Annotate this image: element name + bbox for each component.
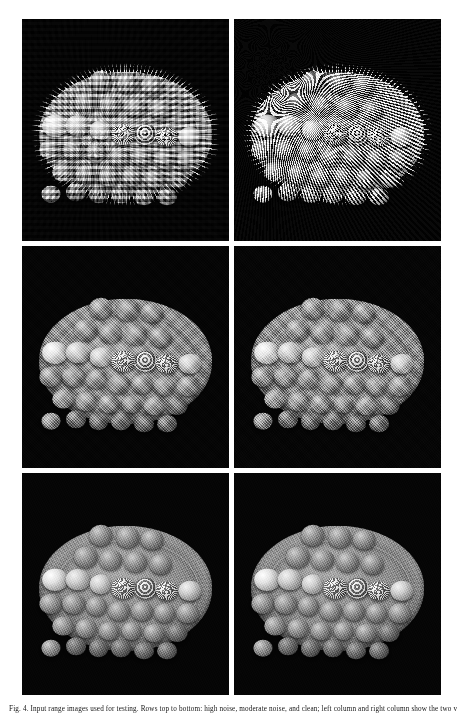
sphere	[321, 147, 343, 166]
sphere	[301, 413, 321, 430]
sphere	[121, 395, 142, 413]
sphere	[333, 168, 354, 186]
sphere	[366, 603, 388, 622]
sphere	[134, 415, 154, 432]
sphere	[157, 415, 177, 432]
sphere	[176, 376, 198, 396]
sphere	[353, 530, 375, 550]
sphere	[301, 347, 323, 367]
sphere	[86, 370, 108, 389]
sphere	[121, 622, 142, 640]
sphere	[343, 601, 365, 620]
panel-row2-right	[234, 246, 441, 468]
range-scan-scene	[22, 473, 229, 695]
sphere	[323, 640, 343, 657]
sphere	[298, 370, 320, 389]
sphere	[253, 186, 272, 203]
sphere	[356, 397, 377, 415]
sphere	[156, 127, 178, 147]
sphere	[134, 188, 154, 205]
panel-row-2	[22, 246, 441, 468]
figure-caption: Fig. 4. Input range images used for test…	[9, 705, 457, 717]
sphere	[286, 93, 310, 114]
panel-row1-right	[234, 19, 441, 241]
sphere	[89, 347, 111, 367]
sphere	[99, 395, 120, 413]
sphere	[66, 637, 86, 654]
sphere	[288, 619, 309, 637]
sphere	[368, 581, 390, 601]
sphere	[109, 601, 131, 620]
sphere	[154, 149, 176, 168]
sphere	[321, 601, 343, 620]
sphere	[86, 143, 108, 162]
sphere	[42, 568, 68, 591]
sphere	[277, 342, 302, 364]
sphere	[379, 624, 400, 642]
sphere	[53, 617, 75, 636]
sphere	[131, 374, 153, 393]
sphere	[333, 622, 354, 640]
sphere	[301, 120, 323, 140]
sphere	[111, 186, 131, 203]
sphere	[66, 183, 86, 200]
panel-row-1	[22, 19, 441, 241]
sphere	[76, 392, 97, 410]
sphere	[265, 390, 287, 409]
sphere	[278, 183, 298, 200]
sphere	[176, 603, 198, 623]
sphere	[65, 569, 90, 591]
sphere	[41, 413, 60, 430]
sphere	[99, 622, 120, 640]
sphere	[131, 601, 153, 620]
panel-row2-left	[22, 246, 229, 468]
sphere	[311, 622, 332, 640]
panel-row-3	[22, 473, 441, 695]
sphere	[298, 597, 320, 616]
sphere	[41, 186, 60, 203]
sphere	[141, 303, 163, 323]
sphere	[278, 637, 298, 654]
sphere	[141, 530, 163, 550]
figure-root: Fig. 4. Input range images used for test…	[0, 0, 462, 717]
sphere	[253, 413, 272, 430]
range-scan-scene	[234, 19, 441, 241]
sphere	[144, 624, 165, 642]
sphere	[176, 149, 198, 169]
sphere	[150, 554, 172, 574]
sphere	[369, 415, 389, 432]
sphere	[53, 390, 75, 409]
sphere	[150, 100, 172, 120]
sphere	[368, 354, 390, 374]
sphere	[346, 415, 366, 432]
sphere	[346, 188, 366, 205]
panel-row3-left	[22, 473, 229, 695]
sphere	[366, 149, 388, 168]
sphere	[99, 168, 120, 186]
sphere	[346, 642, 366, 659]
sphere	[167, 170, 188, 188]
sphere	[379, 397, 400, 415]
sphere	[89, 120, 111, 140]
sphere	[265, 617, 287, 636]
sphere	[362, 327, 384, 347]
sphere	[144, 170, 165, 188]
sphere	[265, 163, 287, 182]
sphere	[74, 320, 98, 341]
sphere	[343, 374, 365, 393]
sphere	[366, 376, 388, 395]
sphere	[111, 640, 131, 657]
sphere	[156, 354, 178, 374]
sphere	[353, 76, 375, 96]
sphere	[254, 341, 280, 364]
sphere	[311, 395, 332, 413]
sphere	[369, 188, 389, 205]
sphere	[253, 640, 272, 657]
sphere	[144, 397, 165, 415]
sphere	[254, 568, 280, 591]
range-scan-scene	[22, 19, 229, 241]
sphere	[65, 115, 90, 137]
sphere	[131, 147, 153, 166]
panel-row3-right	[234, 473, 441, 695]
sphere	[323, 186, 343, 203]
